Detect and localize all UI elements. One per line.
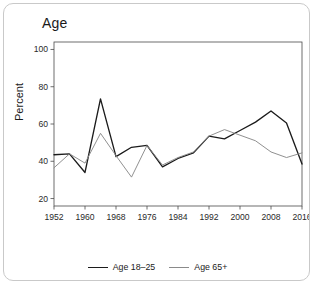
svg-text:1960: 1960	[75, 212, 94, 222]
svg-text:80: 80	[38, 82, 48, 92]
x-axis-ticks: 195219601968197619841992200020082016	[44, 206, 310, 222]
series-lines	[54, 99, 302, 177]
svg-text:100: 100	[34, 44, 49, 54]
svg-text:2016: 2016	[292, 212, 310, 222]
y-axis-ticks: 20406080100	[34, 44, 54, 203]
legend-swatch-line	[88, 267, 108, 268]
svg-text:2008: 2008	[261, 212, 280, 222]
legend-item-1[interactable]: Age 65+	[169, 262, 227, 272]
legend-item-0[interactable]: Age 18–25	[88, 262, 156, 272]
chart-legend: Age 18–25Age 65+	[4, 262, 310, 272]
line-chart-plot: 20406080100 1952196019681976198419922000…	[4, 4, 310, 281]
svg-text:60: 60	[38, 119, 48, 129]
svg-text:1976: 1976	[137, 212, 156, 222]
svg-text:2000: 2000	[230, 212, 249, 222]
legend-label: Age 65+	[194, 262, 227, 272]
plot-frame	[54, 42, 302, 206]
legend-label: Age 18–25	[113, 262, 156, 272]
chart-card: Age Percent 20406080100 1952196019681976…	[3, 3, 310, 281]
svg-text:40: 40	[38, 156, 48, 166]
svg-text:1984: 1984	[168, 212, 187, 222]
legend-swatch-line	[169, 267, 189, 268]
svg-text:1968: 1968	[106, 212, 125, 222]
svg-text:20: 20	[38, 194, 48, 204]
svg-text:1952: 1952	[44, 212, 63, 222]
svg-text:1992: 1992	[199, 212, 218, 222]
